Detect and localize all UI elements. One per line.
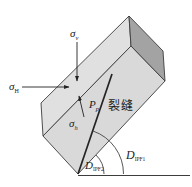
sigma-H-label: σH [9, 80, 19, 94]
dip-angle-1-label: DIPF1 [125, 148, 146, 162]
sigma-v-label: σv [70, 27, 78, 41]
diagram-canvas: σv σH σh Pp 裂缝 DIPF2 DIPF1 [0, 0, 192, 187]
crack-label: 裂缝 [108, 98, 134, 113]
stress-block-diagram: σv σH σh Pp 裂缝 DIPF2 DIPF1 [0, 0, 192, 187]
